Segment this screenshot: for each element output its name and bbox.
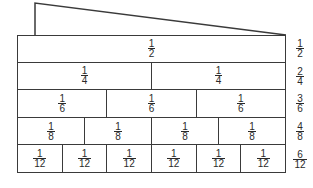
numerator: 3 bbox=[296, 94, 304, 103]
numerator: 1 bbox=[215, 149, 223, 158]
denominator: 4 bbox=[81, 75, 89, 85]
fraction-cell: 112 bbox=[107, 145, 152, 172]
numerator: 4 bbox=[296, 122, 304, 131]
numerator: 1 bbox=[237, 94, 245, 103]
row-total-label: 24 bbox=[289, 63, 311, 91]
row-total-label: 36 bbox=[289, 90, 311, 118]
denominator: 8 bbox=[296, 131, 304, 141]
denominator: 12 bbox=[33, 158, 46, 168]
denominator: 12 bbox=[293, 159, 306, 169]
unit-fraction: 112 bbox=[78, 149, 91, 168]
denominator: 2 bbox=[148, 48, 156, 58]
denominator: 12 bbox=[167, 158, 180, 168]
numerator: 1 bbox=[36, 149, 44, 158]
fraction-cell: 112 bbox=[63, 145, 108, 172]
unit-fraction: 16 bbox=[237, 94, 245, 113]
fraction-cell: 18 bbox=[85, 118, 152, 145]
denominator: 12 bbox=[123, 158, 136, 168]
denominator: 6 bbox=[148, 103, 156, 113]
fraction-cell: 112 bbox=[241, 145, 285, 172]
numerator: 1 bbox=[296, 39, 304, 48]
fraction-row: 12 bbox=[17, 35, 286, 63]
fraction-cell: 16 bbox=[18, 90, 107, 117]
fraction-cell: 18 bbox=[18, 118, 85, 145]
numerator: 2 bbox=[296, 67, 304, 76]
numerator: 1 bbox=[259, 149, 267, 158]
denominator: 4 bbox=[215, 75, 223, 85]
fraction-cell: 18 bbox=[152, 118, 219, 145]
unit-fraction: 18 bbox=[114, 122, 122, 141]
fraction-cell: 112 bbox=[18, 145, 63, 172]
fraction-wall: 12141416161618181818112112112112112112 bbox=[17, 35, 286, 173]
fraction-cell: 16 bbox=[197, 90, 285, 117]
unit-fraction: 16 bbox=[58, 94, 66, 113]
numerator: 1 bbox=[170, 149, 178, 158]
fraction-cell: 14 bbox=[152, 63, 285, 90]
numerator: 1 bbox=[81, 149, 89, 158]
denominator: 2 bbox=[296, 48, 304, 58]
unit-fraction: 14 bbox=[215, 66, 223, 85]
row-total-label: 12 bbox=[289, 35, 311, 63]
fraction-cell: 16 bbox=[107, 90, 196, 117]
equivalent-fraction: 612 bbox=[293, 150, 306, 169]
equivalent-fraction: 48 bbox=[296, 122, 304, 141]
fraction-row: 1414 bbox=[17, 63, 286, 91]
fraction-cell: 112 bbox=[152, 145, 197, 172]
denominator: 6 bbox=[237, 103, 245, 113]
fraction-cell: 18 bbox=[219, 118, 285, 145]
denominator: 12 bbox=[78, 158, 91, 168]
equivalent-fraction: 36 bbox=[296, 94, 304, 113]
equivalent-fraction: 24 bbox=[296, 67, 304, 86]
unit-fraction: 112 bbox=[257, 149, 270, 168]
numerator: 6 bbox=[296, 150, 304, 159]
numerator: 1 bbox=[215, 66, 223, 75]
unit-fraction: 12 bbox=[148, 39, 156, 58]
fraction-cell: 12 bbox=[18, 36, 285, 62]
unit-fraction: 18 bbox=[181, 122, 189, 141]
row-total-label: 612 bbox=[289, 145, 311, 173]
numerator: 1 bbox=[148, 94, 156, 103]
row-total-label: 48 bbox=[289, 118, 311, 146]
unit-fraction: 14 bbox=[81, 66, 89, 85]
denominator: 6 bbox=[296, 103, 304, 113]
numerator: 1 bbox=[47, 122, 55, 131]
fraction-row: 18181818 bbox=[17, 118, 286, 146]
unit-fraction: 18 bbox=[248, 122, 256, 141]
denominator: 12 bbox=[212, 158, 225, 168]
fraction-cell: 112 bbox=[197, 145, 242, 172]
numerator: 1 bbox=[148, 39, 156, 48]
wedge-flap bbox=[0, 0, 313, 40]
denominator: 6 bbox=[58, 103, 66, 113]
fraction-row: 112112112112112112 bbox=[17, 145, 286, 173]
unit-fraction: 18 bbox=[47, 122, 55, 141]
numerator: 1 bbox=[114, 122, 122, 131]
unit-fraction: 112 bbox=[33, 149, 46, 168]
numerator: 1 bbox=[181, 122, 189, 131]
unit-fraction: 112 bbox=[123, 149, 136, 168]
denominator: 12 bbox=[257, 158, 270, 168]
numerator: 1 bbox=[248, 122, 256, 131]
equivalent-fraction-labels: 12243648612 bbox=[289, 35, 311, 173]
denominator: 8 bbox=[181, 131, 189, 141]
unit-fraction: 112 bbox=[212, 149, 225, 168]
unit-fraction: 112 bbox=[167, 149, 180, 168]
equivalent-fraction: 12 bbox=[296, 39, 304, 58]
fraction-row: 161616 bbox=[17, 90, 286, 118]
unit-fraction: 16 bbox=[148, 94, 156, 113]
denominator: 8 bbox=[114, 131, 122, 141]
numerator: 1 bbox=[81, 66, 89, 75]
numerator: 1 bbox=[125, 149, 133, 158]
denominator: 8 bbox=[248, 131, 256, 141]
numerator: 1 bbox=[58, 94, 66, 103]
denominator: 4 bbox=[296, 76, 304, 86]
fraction-cell: 14 bbox=[18, 63, 152, 90]
denominator: 8 bbox=[47, 131, 55, 141]
